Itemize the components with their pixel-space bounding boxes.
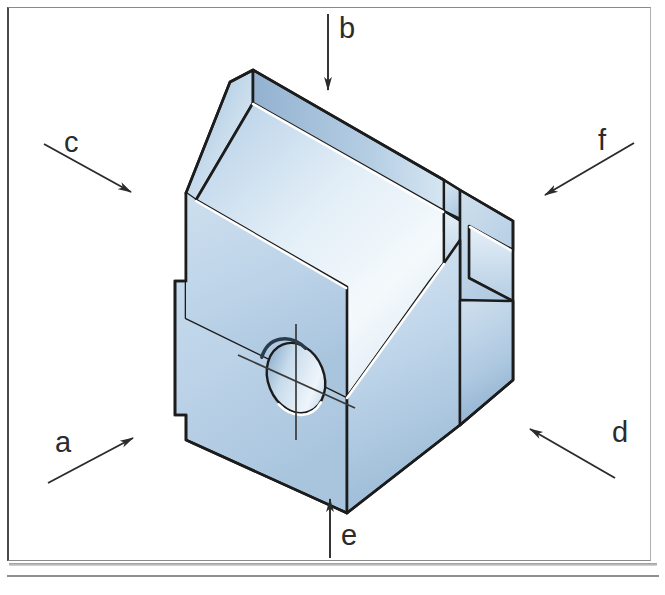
isometric-drawing <box>0 0 665 595</box>
arrow-label-e: e <box>341 521 357 550</box>
arrow-label-d: d <box>612 418 628 447</box>
solid-object <box>175 70 513 513</box>
face-lower-right-ext <box>460 300 513 425</box>
arrow-label-b: b <box>339 14 355 43</box>
arrow-label-a: a <box>55 428 71 457</box>
arrow-c <box>44 144 131 192</box>
arrow-f <box>545 143 634 195</box>
arrow-d <box>530 429 615 478</box>
arrow-label-f: f <box>598 126 606 155</box>
arrow-label-c: c <box>64 128 79 157</box>
figure-page: a b c d e f <box>0 0 665 595</box>
